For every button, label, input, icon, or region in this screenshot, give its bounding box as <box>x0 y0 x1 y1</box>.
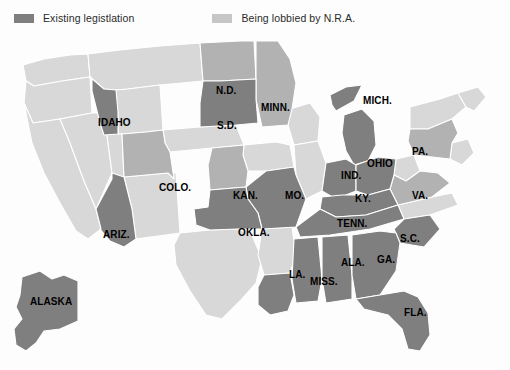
state-wisconsin <box>288 103 320 145</box>
state-alaska <box>14 271 78 351</box>
legend-item-existing: Existing legistlation <box>14 12 134 24</box>
state-mid-atlantic <box>450 139 474 165</box>
map-legend: Existing legistlation Being lobbied by N… <box>0 0 510 36</box>
label-oklahoma: OKLA. <box>238 227 270 238</box>
label-mississippi: MISS. <box>310 276 338 287</box>
label-idaho: IDAHO <box>98 117 131 128</box>
state-north-dakota <box>200 41 256 81</box>
label-kentucky: KY. <box>355 193 371 204</box>
label-alabama: ALA. <box>341 257 365 268</box>
label-minnesota: MINN. <box>261 102 290 113</box>
label-colorado: COLO. <box>159 182 191 193</box>
label-south-dakota: S.D. <box>217 120 237 131</box>
state-kansas <box>208 145 248 190</box>
us-map: IDAHO N.D. S.D. MINN. MICH. COLO. KAN. M… <box>0 33 510 370</box>
state-alabama <box>322 235 352 303</box>
us-map-svg: IDAHO N.D. S.D. MINN. MICH. COLO. KAN. M… <box>0 33 510 370</box>
label-louisiana: LA. <box>289 269 306 280</box>
state-minnesota <box>256 41 296 127</box>
label-missouri: MO. <box>285 190 304 201</box>
label-indiana: IND. <box>341 170 362 181</box>
label-kansas: KAN. <box>233 190 258 201</box>
label-arizona: ARIZ. <box>103 229 130 240</box>
state-texas <box>174 229 262 319</box>
state-new-york <box>410 93 466 129</box>
label-tennessee: TENN. <box>337 218 368 229</box>
state-florida <box>356 291 430 351</box>
label-florida: FLA. <box>404 307 427 318</box>
label-virginia: VA. <box>412 190 428 201</box>
label-georgia: GA. <box>377 254 395 265</box>
legend-label-existing: Existing legistlation <box>43 12 134 24</box>
label-michigan: MICH. <box>363 95 392 106</box>
label-north-dakota: N.D. <box>216 85 237 96</box>
legend-swatch-dark-icon <box>14 14 34 23</box>
label-pennsylvania: PA. <box>412 146 428 157</box>
legend-item-lobbied: Being lobbied by N.R.A. <box>212 12 355 24</box>
state-iowa <box>243 142 294 171</box>
state-montana <box>88 43 203 90</box>
label-ohio: OHIO <box>367 158 393 169</box>
legend-label-lobbied: Being lobbied by N.R.A. <box>241 12 355 24</box>
label-south-carolina: S.C. <box>400 233 420 244</box>
infographic-root: Existing legistlation Being lobbied by N… <box>0 0 510 370</box>
label-alaska: ALASKA <box>30 296 72 307</box>
legend-swatch-light-icon <box>212 14 232 23</box>
